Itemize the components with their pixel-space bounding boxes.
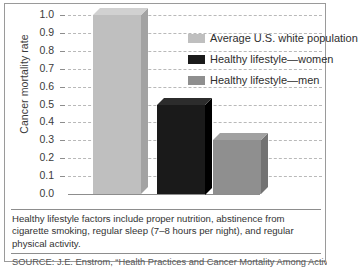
legend-swatch	[188, 55, 205, 64]
y-axis-tick	[60, 158, 65, 159]
y-axis-tick-label: 0.7	[0, 62, 54, 74]
y-axis-tick	[60, 87, 65, 88]
legend-label: Average U.S. white population	[210, 32, 358, 44]
bar-side-face	[141, 8, 148, 194]
bar-top-face	[157, 98, 212, 105]
y-axis-tick-label: 0.9	[0, 26, 54, 38]
source-text: SOURCE: J.E. Enstrom, “Health Practices …	[5, 254, 327, 269]
y-axis-tick-label: 0.1	[0, 169, 54, 181]
bar-side-face	[261, 133, 268, 194]
y-axis-tick-label: 0.6	[0, 80, 54, 92]
bar-side-face	[205, 98, 212, 195]
plot-area: 1.00.90.80.70.60.50.40.30.20.10.0 Averag…	[60, 12, 322, 197]
legend-label: Healthy lifestyle—men	[210, 74, 319, 86]
y-axis-tick-label: 0.5	[0, 98, 54, 110]
y-axis-tick-label: 0.0	[0, 187, 54, 199]
chart-region: Cancer mortality rate 1.00.90.80.70.60.5…	[5, 4, 327, 210]
y-axis-tick-label: 1.0	[0, 8, 54, 20]
bar	[213, 140, 261, 194]
y-axis-tick-label: 0.4	[0, 115, 54, 127]
y-axis-tick	[60, 140, 65, 141]
bar-face	[93, 15, 141, 194]
bar	[157, 105, 205, 195]
caption-text: Healthy lifestyle factors include proper…	[5, 210, 327, 253]
y-axis-tick	[60, 51, 65, 52]
legend-swatch	[188, 34, 205, 43]
legend-item: Healthy lifestyle—women	[188, 50, 362, 68]
caption-block: Healthy lifestyle factors include proper…	[5, 209, 327, 254]
legend-item: Healthy lifestyle—men	[188, 71, 362, 89]
y-axis-tick-label: 0.2	[0, 151, 54, 163]
y-axis-tick-label: 0.8	[0, 44, 54, 56]
y-axis-tick	[60, 15, 65, 16]
legend-label: Healthy lifestyle—women	[210, 53, 334, 65]
figure-frame: Cancer mortality rate 1.00.90.80.70.60.5…	[4, 3, 326, 262]
y-axis-tick-label: 0.3	[0, 133, 54, 145]
y-axis-tick	[60, 69, 65, 70]
source-block: SOURCE: J.E. Enstrom, “Health Practices …	[5, 253, 327, 269]
bar-top-face	[213, 133, 268, 140]
gridline	[68, 194, 260, 195]
bar-face	[157, 105, 205, 195]
y-axis-tick	[60, 122, 65, 123]
legend-item: Average U.S. white population	[188, 29, 362, 47]
bar	[93, 15, 141, 194]
chart-legend: Average U.S. white populationHealthy lif…	[188, 29, 362, 92]
bar-top-face	[93, 8, 148, 15]
bar-face	[213, 140, 261, 194]
y-axis-tick	[60, 33, 65, 34]
legend-swatch	[188, 76, 205, 85]
y-axis-tick	[60, 176, 65, 177]
y-axis-tick	[60, 105, 65, 106]
